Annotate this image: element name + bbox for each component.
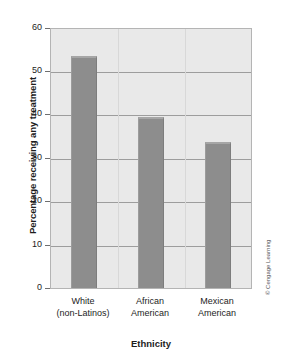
y-tick-label-40: 40 [12, 108, 42, 118]
y-tick-label-20: 20 [12, 195, 42, 205]
x-tick-label-mexican-american: Mexican American [172, 296, 262, 319]
x-tick-mexican-line2: American [172, 308, 262, 320]
bar-white-non-latinos [71, 56, 97, 288]
bar-mexican-american [205, 142, 231, 288]
y-tick-label-30: 30 [12, 152, 42, 162]
x-tick-mexican-line1: Mexican [172, 296, 262, 308]
plot-area [50, 28, 252, 289]
y-tick-label-10: 10 [12, 239, 42, 249]
copyright-credit: © Cengage Learning [265, 195, 271, 295]
category-divider-2 [185, 29, 186, 288]
y-tick-label-60: 60 [12, 22, 42, 32]
y-tick-label-0: 0 [12, 282, 42, 292]
y-tick-label-50: 50 [12, 65, 42, 75]
bar-chart-figure: Percentage receiving any treatment 60 50… [0, 0, 293, 359]
x-axis-title: Ethnicity [50, 338, 252, 349]
bar-african-american [138, 117, 164, 288]
category-divider-1 [118, 29, 119, 288]
